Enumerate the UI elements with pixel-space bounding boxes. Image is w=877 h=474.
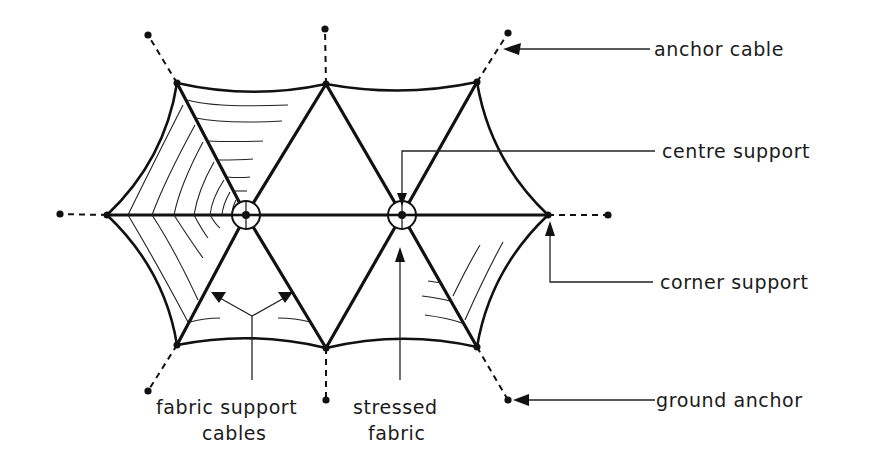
leader-corner-support xyxy=(545,221,653,282)
arrow-head-icon xyxy=(211,292,226,303)
leader-centre-support xyxy=(397,151,655,206)
label-stressed-fabric-line1: stressed xyxy=(353,396,438,418)
label-ground-anchor: ground anchor xyxy=(656,389,803,411)
edge-lower-left xyxy=(107,215,177,345)
fabric-roof-diagram: anchor cable centre support corner suppo… xyxy=(0,0,877,474)
label-centre-support: centre support xyxy=(662,140,810,162)
edge-upper-right xyxy=(477,82,548,215)
leader-anchor-cable xyxy=(503,43,650,55)
edge-top-left xyxy=(177,83,326,92)
label-corner-support: corner support xyxy=(660,271,808,293)
support-cable-frame xyxy=(107,82,548,348)
edge-upper-left xyxy=(107,83,177,215)
leader-ground-anchor xyxy=(513,394,655,406)
label-fabric-support-line2: cables xyxy=(202,422,267,444)
edge-lower-right xyxy=(477,215,548,347)
label-fabric-support-line1: fabric support xyxy=(156,396,297,418)
leader-fabric-support-cables xyxy=(211,292,293,380)
arrow-head-icon xyxy=(545,221,555,236)
label-anchor-cable: anchor cable xyxy=(654,38,784,60)
centre-support-left xyxy=(232,201,260,229)
edge-top-right xyxy=(326,82,477,91)
arrow-head-icon xyxy=(395,247,405,262)
arrow-head-icon xyxy=(503,43,521,55)
leader-stressed-fabric xyxy=(395,247,405,380)
fabric-hatching-lower-right xyxy=(422,242,503,323)
arrow-head-icon xyxy=(513,394,529,406)
arrow-head-icon xyxy=(278,292,293,303)
edge-bottom-right xyxy=(326,339,477,348)
label-stressed-fabric-line2: fabric xyxy=(368,422,426,444)
